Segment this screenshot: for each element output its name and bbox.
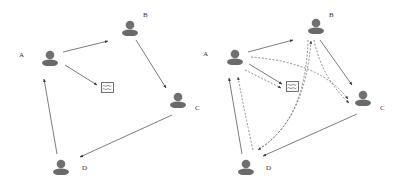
label-right-c: C [380, 105, 385, 112]
right-diagram [227, 19, 371, 176]
edge-c-to-d [80, 115, 172, 157]
person-icon-a [42, 51, 58, 67]
edge-b-to-c [136, 40, 166, 88]
person-icon-d [238, 160, 254, 176]
person-icon-b [122, 21, 138, 37]
label-right-b: B [329, 12, 334, 19]
solid-arrows [44, 40, 172, 157]
message-icon [102, 83, 114, 93]
label-right-d: D [266, 165, 271, 172]
person-icon-c [355, 91, 371, 107]
label-left-c: C [195, 105, 200, 112]
edge-a-to-b [63, 41, 108, 52]
dashed-edge-d-to-b [259, 41, 311, 149]
label-left-b: B [143, 12, 148, 19]
dashed-arrows [238, 40, 349, 150]
person-icon-b [308, 19, 324, 35]
dashed-edge-a-to-c [251, 57, 348, 99]
edge-a-to-message [65, 65, 97, 85]
person-icon-c [170, 93, 186, 109]
solid-arrows [229, 40, 357, 156]
message-icon [287, 82, 299, 92]
label-right-a: A [203, 51, 208, 58]
person-icon-d [53, 160, 69, 176]
edge-a-to-b [248, 40, 293, 52]
label-left-d: D [82, 165, 87, 172]
edge-a-to-message [249, 64, 282, 84]
edge-c-to-d [263, 114, 357, 156]
diagram-canvas [0, 0, 402, 183]
edge-d-to-a [44, 79, 57, 154]
label-left-a: A [19, 52, 24, 59]
person-icon-a [227, 50, 243, 66]
left-diagram [42, 21, 186, 176]
dashed-edge-d-to-a [238, 77, 253, 150]
